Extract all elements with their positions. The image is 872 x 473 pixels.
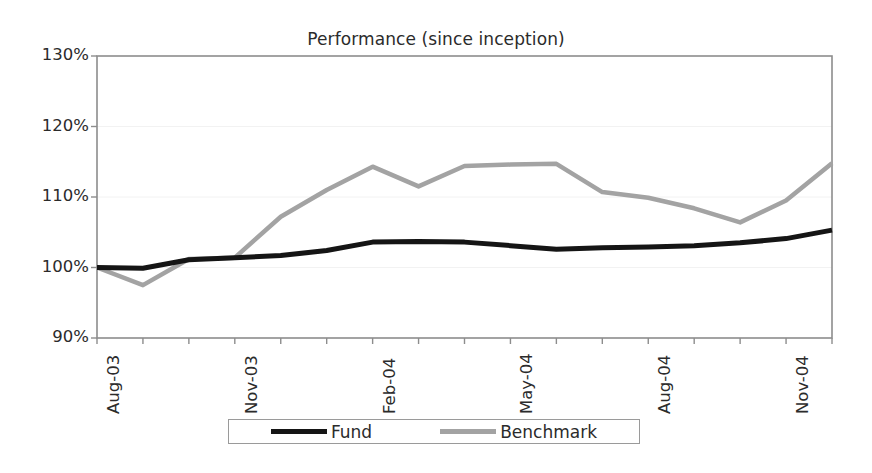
performance-chart: Performance (since inception) 90%100%110… xyxy=(0,0,872,473)
legend-item-benchmark: Benchmark xyxy=(440,422,597,442)
x-axis-tick-label: Aug-04 xyxy=(655,355,674,414)
x-axis-tick-label: Feb-04 xyxy=(380,358,399,414)
legend-label-fund: Fund xyxy=(331,422,372,442)
legend-label-benchmark: Benchmark xyxy=(500,422,597,442)
chart-legend: Fund Benchmark xyxy=(228,419,640,444)
x-axis-tick-labels: Aug-03Nov-03Feb-04May-04Aug-04Nov-04 xyxy=(0,0,872,473)
legend-item-fund: Fund xyxy=(271,422,372,442)
x-axis-tick-label: Nov-03 xyxy=(242,355,261,414)
x-axis-tick-label: Aug-03 xyxy=(104,355,123,414)
legend-swatch-fund-icon xyxy=(271,429,327,434)
legend-swatch-benchmark-icon xyxy=(440,429,496,434)
x-axis-tick-label: May-04 xyxy=(517,353,536,414)
x-axis-tick-label: Nov-04 xyxy=(793,355,812,414)
